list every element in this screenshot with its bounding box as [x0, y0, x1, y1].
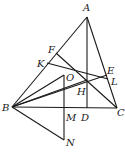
- label-point-d: D: [80, 112, 89, 123]
- segments: [12, 17, 117, 140]
- label-point-k: K: [36, 58, 45, 69]
- label-point-n: N: [65, 137, 76, 148]
- label-point-l: L: [110, 76, 118, 87]
- label-point-o: O: [66, 72, 74, 83]
- label-point-f: F: [47, 44, 56, 55]
- label-point-e: E: [106, 65, 115, 76]
- label-point-h: H: [76, 86, 86, 97]
- label-point-b: B: [1, 102, 9, 113]
- geometry-diagram: ABCDFKELOHMN: [0, 0, 125, 161]
- segment-bn: [12, 107, 64, 140]
- label-point-m: M: [65, 112, 77, 123]
- segment-kl: [47, 63, 108, 79]
- label-point-c: C: [117, 107, 125, 118]
- label-point-a: A: [82, 2, 90, 13]
